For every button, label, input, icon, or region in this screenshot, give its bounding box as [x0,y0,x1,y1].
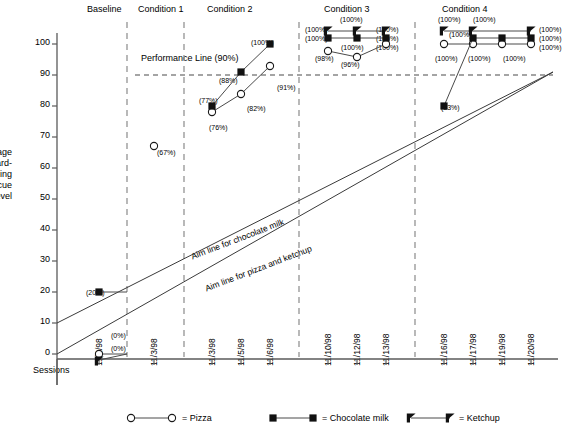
data-point-chocolate-9 [498,34,505,41]
aim-line-chocolate-milk [57,72,553,323]
phase-divider-lines [127,22,415,357]
data-point-chocolate-0 [95,288,102,295]
data-point-chocolate-7 [440,102,447,109]
data-point-ketchup-3 [382,26,391,35]
aim-line-pizza-ketchup [57,72,553,354]
series-ketchup [95,26,536,365]
y-axis-ticks [52,44,57,354]
data-point-chocolate-3 [266,40,273,47]
legend-swatch-pizza [127,414,175,421]
data-point-pizza-5 [324,47,331,54]
chart-figure: Baseline Condition 1 Condition 2 Conditi… [0,0,565,432]
data-point-chocolate-1 [208,102,215,109]
data-point-pizza-3 [237,90,244,97]
data-point-pizza-8 [440,40,447,47]
data-point-pizza-1 [150,142,157,149]
x-axis-ticks [57,359,531,385]
series-pizza [95,40,534,357]
data-point-pizza-6 [353,53,360,60]
data-point-ketchup-6 [527,26,536,35]
series-chocolate-milk [95,34,534,295]
chart-plot-area [0,0,565,432]
legend-swatch-ketchup [407,413,455,422]
data-point-pizza-4 [266,62,273,69]
data-point-chocolate-2 [237,68,244,75]
legend [127,413,454,422]
legend-swatch-chocolate-milk [269,414,316,421]
